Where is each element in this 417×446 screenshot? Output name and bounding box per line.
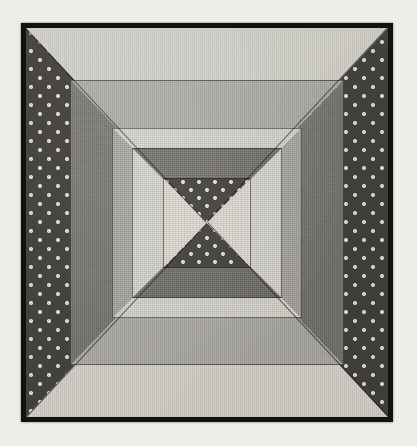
quilt-block xyxy=(26,28,388,417)
screenshot-canvas xyxy=(0,0,417,446)
center-hourglass xyxy=(163,178,251,268)
quilt-block-binding-frame xyxy=(21,23,393,422)
